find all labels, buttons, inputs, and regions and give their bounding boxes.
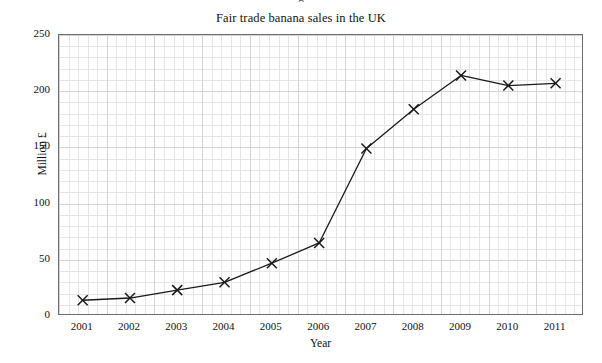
y-tick-label: 250 xyxy=(4,27,50,39)
y-tick-minor xyxy=(58,226,59,227)
data-point-marker xyxy=(456,70,466,80)
y-tick-minor xyxy=(58,305,59,306)
x-tick-major xyxy=(366,314,367,315)
y-tick-major xyxy=(58,204,59,205)
x-tick-major xyxy=(461,314,462,315)
series-line xyxy=(83,75,556,300)
y-tick-label: 50 xyxy=(4,252,50,264)
y-tick-minor xyxy=(58,57,59,58)
data-point-marker xyxy=(361,144,371,154)
x-tick-major xyxy=(508,314,509,315)
x-tick-minor xyxy=(473,314,474,315)
y-tick-label: 0 xyxy=(4,308,50,320)
x-tick-minor xyxy=(532,314,533,315)
x-tick-minor xyxy=(449,314,450,315)
y-axis-title: Million £ xyxy=(36,94,48,214)
y-tick-minor xyxy=(58,215,59,216)
y-tick-major xyxy=(58,260,59,261)
data-point-marker xyxy=(314,238,324,248)
x-tick-label: 2011 xyxy=(525,320,585,332)
x-tick-minor xyxy=(295,314,296,315)
y-tick-minor xyxy=(58,249,59,250)
x-tick-minor xyxy=(402,314,403,315)
data-point-marker xyxy=(409,104,419,114)
y-tick-minor xyxy=(58,159,59,160)
y-tick-minor xyxy=(58,282,59,283)
y-tick-minor xyxy=(58,237,59,238)
y-tick-minor xyxy=(58,114,59,115)
x-tick-minor xyxy=(426,314,427,315)
y-tick-major xyxy=(58,35,59,36)
x-tick-minor xyxy=(248,314,249,315)
clipped-overflow-text: g xyxy=(0,0,602,2)
x-tick-major xyxy=(83,314,84,315)
x-tick-minor xyxy=(154,314,155,315)
y-tick-minor xyxy=(58,271,59,272)
x-tick-major xyxy=(225,314,226,315)
chart-title: Fair trade banana sales in the UK xyxy=(0,11,602,26)
chart-figure: g Fair trade banana sales in the UK 0501… xyxy=(0,0,602,363)
x-tick-minor xyxy=(331,314,332,315)
x-tick-minor xyxy=(307,314,308,315)
y-tick-minor xyxy=(58,170,59,171)
x-tick-major xyxy=(556,314,557,315)
y-tick-major xyxy=(58,147,59,148)
x-tick-minor xyxy=(118,314,119,315)
x-tick-minor xyxy=(437,314,438,315)
x-tick-minor xyxy=(520,314,521,315)
x-tick-minor xyxy=(213,314,214,315)
x-tick-minor xyxy=(485,314,486,315)
x-tick-major xyxy=(177,314,178,315)
y-tick-minor xyxy=(58,80,59,81)
x-tick-minor xyxy=(94,314,95,315)
x-tick-minor xyxy=(165,314,166,315)
y-tick-minor xyxy=(58,294,59,295)
y-tick-minor xyxy=(58,69,59,70)
x-tick-minor xyxy=(236,314,237,315)
data-point-marker xyxy=(267,258,277,268)
x-tick-major xyxy=(319,314,320,315)
x-tick-minor xyxy=(355,314,356,315)
x-tick-minor xyxy=(106,314,107,315)
x-tick-minor xyxy=(201,314,202,315)
x-tick-minor xyxy=(378,314,379,315)
y-tick-minor xyxy=(58,192,59,193)
y-tick-minor xyxy=(58,102,59,103)
x-tick-major xyxy=(272,314,273,315)
x-tick-major xyxy=(130,314,131,315)
x-tick-minor xyxy=(390,314,391,315)
y-tick-minor xyxy=(58,136,59,137)
x-tick-minor xyxy=(544,314,545,315)
data-series-layer xyxy=(59,35,583,315)
x-axis-title: Year xyxy=(58,337,583,349)
y-tick-minor xyxy=(58,181,59,182)
x-tick-minor xyxy=(284,314,285,315)
x-tick-minor xyxy=(497,314,498,315)
series-markers xyxy=(78,70,561,305)
plot-area xyxy=(58,34,583,315)
y-tick-minor xyxy=(58,46,59,47)
y-tick-major xyxy=(58,91,59,92)
x-tick-minor xyxy=(343,314,344,315)
x-tick-minor xyxy=(260,314,261,315)
y-tick-minor xyxy=(58,125,59,126)
x-tick-minor xyxy=(189,314,190,315)
x-tick-major xyxy=(414,314,415,315)
x-tick-minor xyxy=(142,314,143,315)
